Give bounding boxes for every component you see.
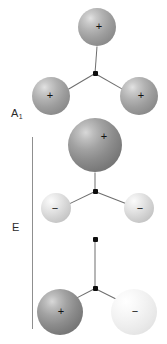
minus-sign-icon: − [130,306,141,317]
atom-lower-right: − [111,289,157,335]
mode-e-2-center-node [93,286,98,291]
atom-lower-left: + [37,289,83,335]
plus-sign-icon: + [56,306,67,317]
bond-center-topnode [95,240,96,289]
molecular-mode-diagram: A1 E ++++−−+− [0,0,167,344]
mode-e-2: +− [0,0,167,344]
node-top [93,237,98,242]
